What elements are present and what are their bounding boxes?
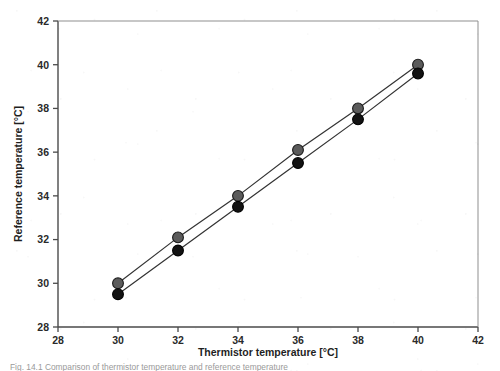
y-tick-label: 40 [37,59,49,71]
y-axis-title: Reference temperature [°C] [12,106,24,242]
x-tick-label: 30 [112,334,124,346]
data-point-marker [293,145,304,156]
data-point-marker [173,232,184,243]
y-tick-label: 30 [37,277,49,289]
x-tick-label: 32 [172,334,184,346]
data-point-marker [233,190,244,201]
chart-background [0,0,500,371]
y-tick-label: 32 [37,233,49,245]
figure-caption: Fig. 14.1 Comparison of thermistor tempe… [10,362,288,371]
y-tick-label: 34 [37,190,49,202]
data-point-marker [353,103,364,114]
x-axis-title: Thermistor temperature [°C] [198,346,338,358]
x-tick-label: 36 [292,334,304,346]
data-point-marker [233,201,244,212]
x-tick-label: 28 [52,334,64,346]
scatter-line-chart: 2830323436384042 2830323436384042 Thermi… [0,0,500,371]
data-point-marker [413,68,424,79]
figure-container: 2830323436384042 2830323436384042 Thermi… [0,0,500,371]
data-point-marker [173,245,184,256]
data-point-marker [293,158,304,169]
x-tick-label: 40 [412,334,424,346]
x-tick-label: 42 [472,334,484,346]
x-tick-label: 38 [352,334,364,346]
data-point-marker [353,114,364,125]
x-tick-label: 34 [232,334,244,346]
data-point-marker [113,289,124,300]
y-tick-label: 36 [37,146,49,158]
y-tick-label: 38 [37,102,49,114]
y-tick-label: 28 [37,321,49,333]
y-tick-label: 42 [37,15,49,27]
data-point-marker [113,278,124,289]
